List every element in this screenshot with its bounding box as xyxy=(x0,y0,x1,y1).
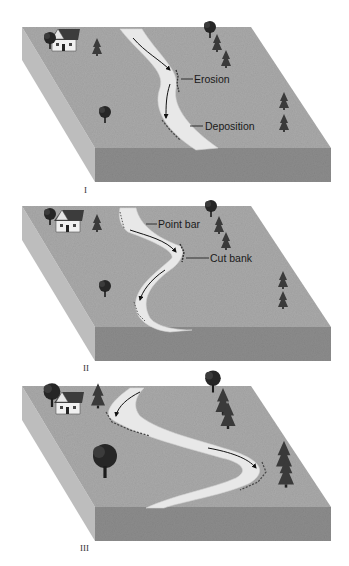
annotation-point-bar: Point bar xyxy=(158,218,201,230)
panel-II: Point bar Cut bank II xyxy=(22,200,331,373)
panel-label-I: I xyxy=(84,185,87,195)
annotation-deposition: Deposition xyxy=(205,120,255,132)
meander-evolution-diagram: Erosion Deposition I Point bar Cut bank … xyxy=(0,0,349,566)
panel-I: Erosion Deposition I xyxy=(22,21,331,195)
panel-III: III xyxy=(22,370,331,553)
panel-label-III: III xyxy=(80,543,89,553)
annotation-cut-bank: Cut bank xyxy=(210,252,253,264)
ground-front-face xyxy=(95,507,331,541)
annotation-erosion: Erosion xyxy=(194,73,230,85)
ground-front-face xyxy=(95,327,331,361)
panel-label-II: II xyxy=(83,363,89,373)
ground-front-face xyxy=(95,148,331,182)
